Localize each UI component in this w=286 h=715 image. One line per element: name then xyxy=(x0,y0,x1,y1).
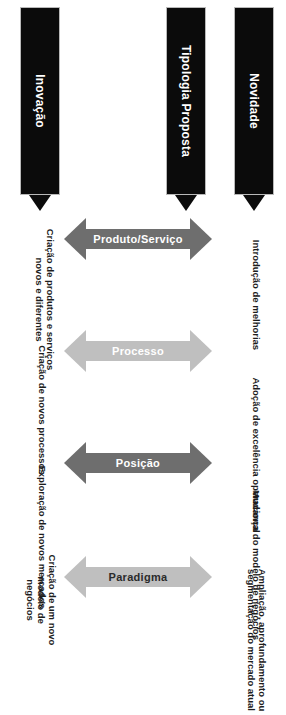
arrow-label-processo: Processo xyxy=(112,345,164,357)
arrow-label-produto-servico: Produto/Serviço xyxy=(93,233,182,245)
novidade-text-paradigma: Mudança do modelo de negócios xyxy=(251,470,262,660)
novidade-pointer-icon xyxy=(243,195,265,211)
arrow-label-paradigma: Paradigma xyxy=(109,571,168,583)
arrow-head-down-icon xyxy=(64,442,86,484)
arrow-head-down-icon xyxy=(64,556,86,598)
arrow-produto-servico: Produto/Serviço xyxy=(64,218,212,260)
tipologia-pointer-icon xyxy=(175,195,197,211)
header-novidade: Novidade xyxy=(234,7,274,195)
arrow-posicao: Posição xyxy=(64,442,212,484)
arrow-label-posicao: Posição xyxy=(116,457,160,469)
inovacao-pointer-icon xyxy=(29,195,51,211)
arrow-head-up-icon xyxy=(190,218,212,260)
novidade-text-produto-servico: Introdução de melhorias xyxy=(251,215,262,375)
arrow-head-down-icon xyxy=(64,218,86,260)
header-inovacao: Inovação xyxy=(20,7,60,195)
arrow-head-down-icon xyxy=(64,330,86,372)
arrow-head-up-icon xyxy=(190,330,212,372)
arrow-paradigma: Paradigma xyxy=(64,556,212,598)
inovacao-text-paradigma: Criação de um novo modelo de negócios xyxy=(24,540,58,660)
arrow-head-up-icon xyxy=(190,442,212,484)
row-tipologia: Tipologia Proposta Produto/Serviço Proce… xyxy=(66,0,214,662)
header-tipologia-proposta: Tipologia Proposta xyxy=(166,7,206,195)
arrow-head-up-icon xyxy=(190,556,212,598)
arrow-processo: Processo xyxy=(64,330,212,372)
